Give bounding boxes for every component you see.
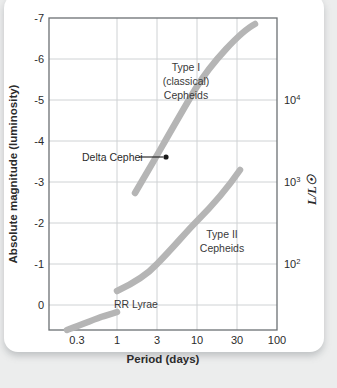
y2-tick-1e4: 104: [284, 93, 300, 106]
period-luminosity-chart: Delta Cephei Type I (classical) Cepheids…: [0, 0, 337, 388]
y2-axis-tick-labels: 104 103 102: [284, 93, 300, 270]
svg-text:-1: -1: [34, 258, 44, 270]
svg-text:10: 10: [191, 334, 203, 346]
rr-lyrae-label: RR Lyrae: [114, 298, 158, 310]
svg-text:-4: -4: [34, 135, 44, 147]
svg-text:RR Lyrae: RR Lyrae: [114, 298, 158, 310]
y-axis-title: Absolute magnitude (luminosity): [7, 84, 19, 263]
y2-tick-1e3: 103: [284, 175, 300, 188]
series-rr-lyrae: [67, 312, 117, 330]
svg-text:-6: -6: [34, 53, 44, 65]
type-ii-label: Type II Cepheids: [200, 228, 244, 254]
delta-cephei-marker: [163, 154, 168, 159]
x-axis-title: Period (days): [127, 353, 200, 365]
y-axis-tick-labels: -7 -6 -5 -4 -3 -2 -1 0: [34, 12, 44, 311]
svg-text:(classical): (classical): [163, 75, 210, 87]
plot-frame: [49, 18, 277, 330]
svg-text:-3: -3: [34, 176, 44, 188]
svg-text:0.3: 0.3: [69, 334, 84, 346]
svg-text:100: 100: [268, 334, 286, 346]
svg-text:-7: -7: [34, 12, 44, 24]
y2-axis-title: L/L☉: [305, 174, 319, 206]
delta-cephei-label: Delta Cephei: [82, 151, 143, 163]
x-axis-tick-labels: 0.3 1 3 10 30 100: [69, 334, 286, 346]
chart-gridlines: [49, 18, 277, 330]
svg-text:Type I: Type I: [172, 61, 201, 73]
svg-text:30: 30: [231, 334, 243, 346]
svg-text:-2: -2: [34, 217, 44, 229]
svg-text:-5: -5: [34, 94, 44, 106]
svg-text:Type II: Type II: [206, 228, 238, 240]
svg-text:Cepheids: Cepheids: [164, 89, 208, 101]
type-i-label: Type I (classical) Cepheids: [163, 61, 210, 101]
y2-tick-1e2: 102: [284, 257, 300, 270]
svg-text:0: 0: [38, 299, 44, 311]
svg-text:Cepheids: Cepheids: [200, 242, 244, 254]
svg-text:1: 1: [114, 334, 120, 346]
svg-text:3: 3: [154, 334, 160, 346]
